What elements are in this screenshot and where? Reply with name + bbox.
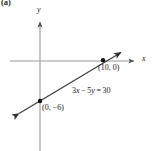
y-intercept-label: (0, −6) [42, 104, 64, 112]
x-intercept-label: (10, 0) [98, 64, 119, 72]
equation-var-y: y [91, 86, 95, 95]
equation-minus: − [81, 86, 86, 95]
y-axis-label: y [37, 6, 41, 14]
coordinate-plane-graphic [0, 0, 152, 151]
x-axis-label: x [142, 55, 146, 63]
equation-constant: 30 [103, 86, 111, 95]
point-x-intercept [101, 58, 105, 62]
equation-equals: = [96, 86, 101, 95]
plotted-line-3x-5y-30 [19, 52, 121, 113]
plotted-line-group [19, 52, 121, 113]
equation-var-x: x [76, 86, 80, 95]
graph-figure: (a) y x (10, 0) (0, −6) 3x − 5y = 30 [0, 0, 152, 151]
equation-annotation: 3x − 5y = 30 [72, 86, 111, 95]
